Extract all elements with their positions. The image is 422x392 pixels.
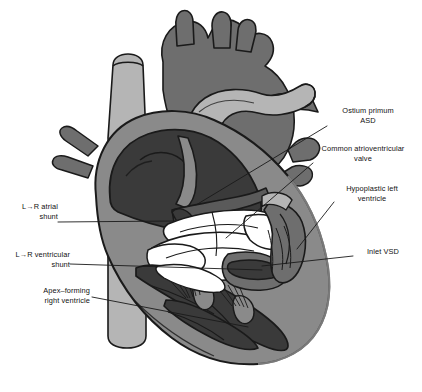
brachiocephalic-trunk-stump xyxy=(176,11,194,46)
annotation-inlet-vsd: Inlet VSD xyxy=(352,247,414,257)
left-subclavian-stump xyxy=(236,19,256,52)
pulmonary-vein-stump-upper xyxy=(60,127,98,156)
annotation-hypoplastic-left-ventricle-text-2: ventricle xyxy=(358,194,386,203)
pulmonary-vein-stump-lower xyxy=(52,156,93,178)
annotation-lr-atrial-shunt: L→R atrial shunt xyxy=(4,202,58,221)
annotation-common-atrioventricular-valve: Common atrioventricular valve xyxy=(308,144,418,163)
heart-illustration-figure: Ostium primum ASD Common atrioventricula… xyxy=(0,0,422,392)
annotation-apex-forming-right-ventricle: Apex–forming right ventricle xyxy=(14,286,90,305)
annotation-ostium-primum-asd: Ostium primum ASD xyxy=(322,106,414,125)
annotation-lr-ventricular-shunt: L→R ventricular shunt xyxy=(4,250,70,269)
annotation-hypoplastic-left-ventricle: Hypoplastic leftventricle xyxy=(328,184,416,203)
annotation-hypoplastic-left-ventricle-text: Hypoplastic left xyxy=(346,184,398,193)
left-carotid-stump xyxy=(212,12,231,48)
